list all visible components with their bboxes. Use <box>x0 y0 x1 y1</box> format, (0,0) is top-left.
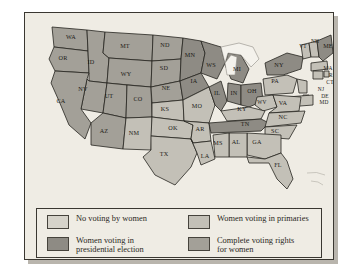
state-label-KY: KY <box>237 105 247 112</box>
state-label-GA: GA <box>252 138 262 145</box>
legend-item-primaries[interactable]: Women voting in primaries <box>188 214 321 231</box>
state-UT[interactable] <box>103 83 127 118</box>
state-ND[interactable] <box>152 35 183 61</box>
state-label-WS: WS <box>206 61 216 68</box>
legend-label-primaries: Women voting in primaries <box>217 214 309 224</box>
state-label-OK: OK <box>168 124 178 131</box>
state-label-OH: OH <box>247 87 257 94</box>
legend-swatch-primaries <box>188 215 210 229</box>
state-label-TN: TN <box>241 120 250 127</box>
state-label-FL: FL <box>274 161 282 168</box>
state-label-CT: CT <box>326 79 333 85</box>
state-label-NC: NC <box>279 113 288 120</box>
us-map: WAORIDMTNDMNWSSDWYNVCAUTCONEIAILMIINOHPA… <box>25 13 333 203</box>
state-label-MD: MD <box>319 99 328 105</box>
legend-label-presidential: Women voting in presidential election <box>76 236 144 254</box>
legend-item-presidential[interactable]: Women voting in presidential election <box>47 236 180 253</box>
state-label-NE: NE <box>162 84 171 91</box>
state-label-LA: LA <box>201 152 210 159</box>
legend-swatch-no-voting <box>47 215 69 229</box>
state-label-NV: NV <box>78 85 88 92</box>
state-OR[interactable] <box>49 47 89 73</box>
state-label-NY: NY <box>274 61 284 68</box>
state-label-VA: VA <box>279 99 288 106</box>
state-NJ[interactable] <box>297 79 307 93</box>
state-label-SD: SD <box>160 64 169 71</box>
coastline-hint <box>307 172 325 175</box>
state-label-MI: MI <box>233 65 241 72</box>
legend-label-complete: Complete voting rights for women <box>217 236 294 254</box>
legend-swatch-presidential <box>47 237 69 251</box>
state-label-CA: CA <box>57 97 66 104</box>
state-label-IL: IL <box>214 89 220 96</box>
state-label-NJ: NJ <box>318 86 324 92</box>
state-label-PA: PA <box>271 77 279 84</box>
state-label-KS: KS <box>161 105 170 112</box>
state-label-ME: ME <box>323 42 333 49</box>
state-label-MA: MA <box>323 65 332 71</box>
state-label-AZ: AZ <box>100 127 109 134</box>
state-PA[interactable] <box>263 75 297 95</box>
suffrage-map-figure: WAORIDMTNDMNWSSDWYNVCAUTCONEIAILMIINOHPA… <box>0 0 345 276</box>
state-label-MT: MT <box>120 42 130 49</box>
state-NY[interactable] <box>265 53 303 75</box>
state-label-MO: MO <box>192 102 203 109</box>
legend-item-complete[interactable]: Complete voting rights for women <box>188 236 321 253</box>
state-label-WV: WV <box>257 99 266 105</box>
state-AL[interactable] <box>229 133 247 157</box>
state-AZ[interactable] <box>91 113 126 149</box>
state-label-NM: NM <box>129 129 140 136</box>
state-label-OR: OR <box>59 54 69 61</box>
us-map-svg: WAORIDMTNDMNWSSDWYNVCAUTCONEIAILMIINOHPA… <box>25 13 333 203</box>
state-label-TX: TX <box>160 150 169 157</box>
state-label-IN: IN <box>231 89 238 96</box>
state-label-NH: NH <box>311 38 319 44</box>
legend-item-no-voting[interactable]: No voting by women <box>47 214 180 231</box>
state-label-IA: IA <box>191 77 198 84</box>
state-CT[interactable] <box>313 71 323 79</box>
state-FL[interactable] <box>247 153 293 189</box>
state-TN[interactable] <box>209 119 269 133</box>
legend-swatch-complete <box>188 237 210 251</box>
state-label-AR: AR <box>196 125 206 132</box>
state-label-AL: AL <box>232 138 241 145</box>
state-label-WA: WA <box>66 33 76 40</box>
state-label-VT: VT <box>299 43 307 49</box>
state-TX[interactable] <box>143 136 197 185</box>
legend-column-left: No voting by women Women voting in presi… <box>37 214 180 257</box>
map-plate: WAORIDMTNDMNWSSDWYNVCAUTCONEIAILMIINOHPA… <box>24 12 334 260</box>
state-label-ND: ND <box>160 41 170 48</box>
state-label-MN: MN <box>185 51 196 58</box>
state-label-SC: SC <box>271 127 279 134</box>
state-label-ID: ID <box>88 58 95 65</box>
legend-column-right: Women voting in primaries Complete votin… <box>180 214 321 257</box>
state-label-CO: CO <box>134 95 143 102</box>
map-legend: No voting by women Women voting in presi… <box>36 208 322 258</box>
legend-label-no-voting: No voting by women <box>76 214 147 224</box>
state-label-WY: WY <box>121 70 132 77</box>
state-label-RI: RI <box>329 72 333 78</box>
state-label-UT: UT <box>105 92 114 99</box>
state-label-MS: MS <box>213 139 223 146</box>
coastline-hint-2 <box>311 181 323 185</box>
